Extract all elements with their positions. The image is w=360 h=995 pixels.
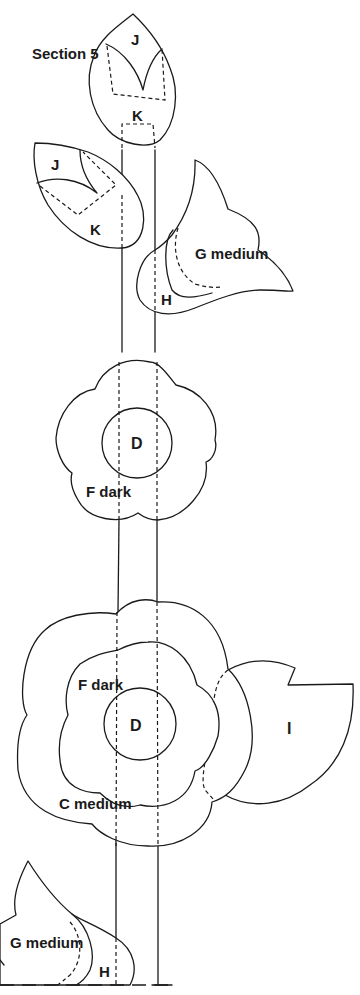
pattern-canvas: J K Section 5 J K G medium H D F dark I: [0, 0, 360, 995]
label-k: K: [132, 107, 143, 124]
section-title: Section 5: [32, 45, 99, 62]
tulip-upper: G medium H: [137, 160, 293, 314]
label-j: J: [51, 156, 59, 173]
label-i: I: [287, 720, 291, 737]
label-c-medium: C medium: [59, 795, 132, 812]
label-j: J: [131, 31, 139, 48]
flower-lower: D F dark C medium: [17, 600, 252, 846]
bud-top: J K Section 5: [32, 14, 175, 148]
label-k: K: [90, 221, 101, 238]
bud-left: J K: [34, 143, 144, 248]
tulip-lower: G medium H: [0, 861, 172, 985]
label-d: D: [131, 435, 143, 452]
flower-upper: D F dark: [56, 360, 216, 520]
label-f-dark: F dark: [86, 483, 132, 500]
label-h: H: [161, 291, 172, 308]
label-h: H: [99, 963, 110, 980]
label-g-medium: G medium: [10, 934, 83, 951]
label-g-medium: G medium: [195, 245, 268, 262]
label-f-dark: F dark: [78, 676, 124, 693]
label-d: D: [130, 717, 142, 734]
